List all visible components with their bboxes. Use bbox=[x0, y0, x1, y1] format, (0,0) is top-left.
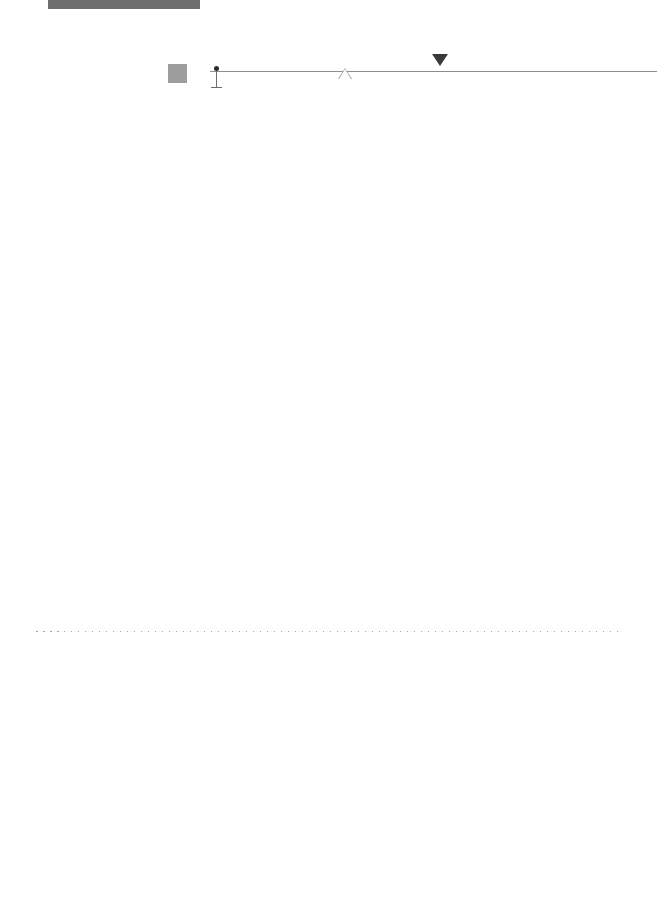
oecd-average-foot bbox=[211, 87, 222, 88]
section-divider bbox=[36, 631, 621, 632]
wei-higher-legend-label bbox=[373, 28, 513, 42]
country-profile-page bbox=[0, 0, 657, 920]
legend-axis-line bbox=[210, 71, 657, 72]
oecd-average-legend-label bbox=[186, 93, 248, 104]
wei-higher-triangle-icon bbox=[432, 54, 448, 66]
wei-lower-triangle-inner-icon bbox=[339, 69, 351, 79]
wei-lower-legend-label bbox=[275, 86, 415, 99]
top-banner-strip bbox=[48, 0, 200, 9]
country-color-swatch bbox=[168, 64, 187, 83]
section-header-teachers bbox=[20, 132, 198, 147]
oecd-average-stem bbox=[216, 71, 217, 88]
